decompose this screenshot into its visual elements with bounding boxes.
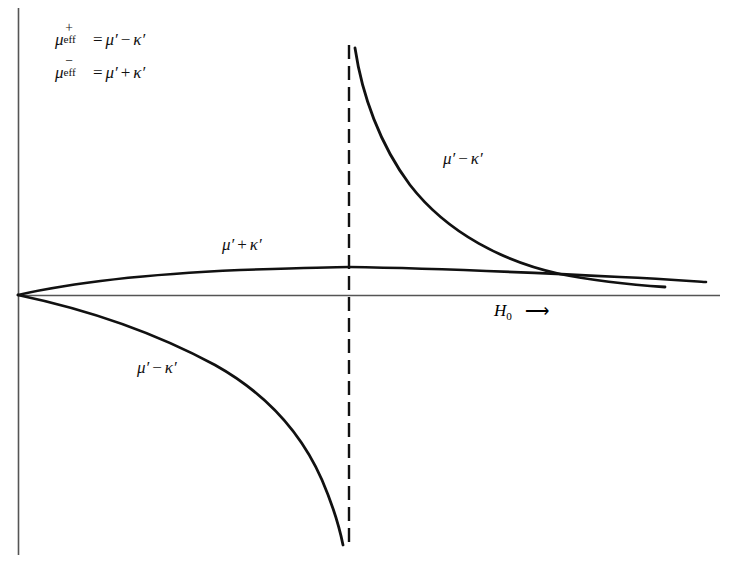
- equals-sign: =: [90, 30, 106, 49]
- equation-block: μeff+=μ′−κ′ μeff−=μ′+κ′: [55, 28, 145, 94]
- kappa-prime-term: κ′: [471, 149, 483, 168]
- mu-prime-term: μ′: [137, 358, 149, 377]
- field-symbol: H: [494, 301, 506, 320]
- curve-label-lower-left: μ′−κ′: [137, 358, 177, 378]
- mu-prime-term: μ′: [443, 149, 455, 168]
- right-arrow-icon: ⟶: [525, 301, 549, 322]
- plus-operator: +: [234, 235, 250, 254]
- curve-label-middle: μ′+κ′: [222, 235, 262, 255]
- mu-symbol: μ: [55, 63, 64, 82]
- superscript-minus: −: [65, 53, 73, 69]
- x-axis-label-group: H0 ⟶: [494, 301, 549, 322]
- equation-mu-eff-minus: μeff−=μ′+κ′: [55, 61, 145, 83]
- mu-eff-minus-script: eff−: [64, 61, 90, 78]
- equation-mu-eff-plus: μeff+=μ′−κ′: [55, 28, 145, 50]
- curve-label-upper-right: μ′−κ′: [443, 149, 483, 169]
- minus-operator: −: [455, 149, 471, 168]
- mu-prime-term: μ′: [222, 235, 234, 254]
- minus-operator: −: [118, 30, 134, 49]
- equals-sign: =: [90, 63, 106, 82]
- kappa-prime-term: κ′: [133, 30, 145, 49]
- curve-mu-minus-kappa-upper-branch: [355, 48, 665, 287]
- kappa-prime-term: κ′: [133, 63, 145, 82]
- plus-operator: +: [118, 63, 134, 82]
- mu-eff-plus-script: eff+: [64, 28, 90, 45]
- mu-prime-term: μ′: [105, 63, 117, 82]
- superscript-plus: +: [65, 20, 73, 36]
- kappa-prime-term: κ′: [250, 235, 262, 254]
- x-axis-label: H0: [494, 301, 512, 322]
- field-subscript: 0: [506, 310, 512, 322]
- figure-container: μeff+=μ′−κ′ μeff−=μ′+κ′ μ′−κ′ μ′+κ′ μ′−κ…: [0, 0, 735, 575]
- minus-operator: −: [149, 358, 165, 377]
- mu-symbol: μ: [55, 30, 64, 49]
- kappa-prime-term: κ′: [165, 358, 177, 377]
- curve-mu-minus-kappa-lower-branch: [18, 295, 343, 545]
- mu-prime-term: μ′: [105, 30, 117, 49]
